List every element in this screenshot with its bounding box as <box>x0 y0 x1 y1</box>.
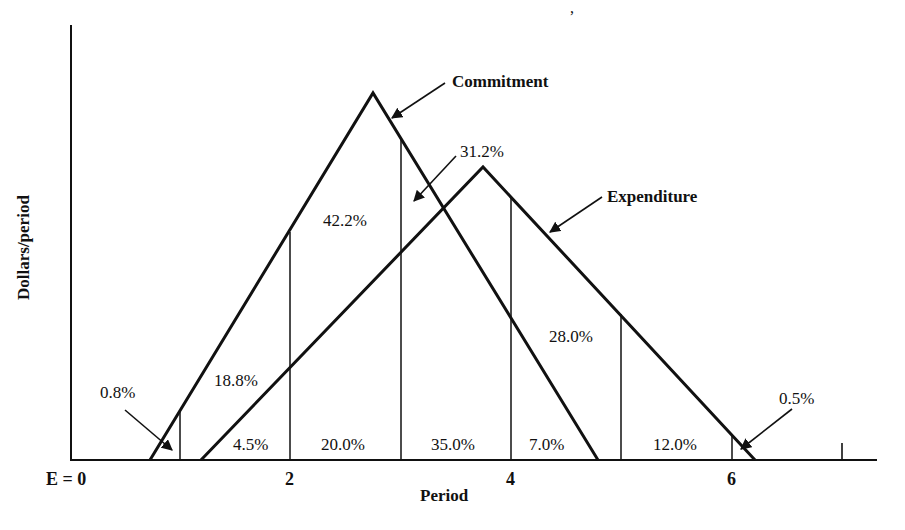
commitment-arrow <box>392 83 445 118</box>
y-axis-label: Dollars/period <box>14 195 34 300</box>
x-tick-4: 4 <box>506 469 515 490</box>
x-tick-0: E = 0 <box>46 469 86 490</box>
commitment-period-4-pct: 31.2% <box>460 143 504 160</box>
x-tick-2: 2 <box>285 469 294 490</box>
commitment-expenditure-diagram: , Dollars/period Period E = 0 2 4 6 Comm… <box>0 0 905 530</box>
expenditure-label: Expenditure <box>607 188 697 205</box>
arrow-0-8 <box>125 410 172 450</box>
expenditure-arrow <box>550 197 602 232</box>
expenditure-period-3-pct: 20.0% <box>321 436 365 453</box>
expenditure-period-7-pct: 0.5% <box>779 390 814 407</box>
stray-mark: , <box>570 0 574 16</box>
expenditure-period-6-pct: 12.0% <box>653 436 697 453</box>
expenditure-period-2-pct: 4.5% <box>233 436 268 453</box>
x-axis-label: Period <box>420 486 468 506</box>
expenditure-period-4-pct: 35.0% <box>431 436 475 453</box>
commitment-period-5-pct: 7.0% <box>529 436 564 453</box>
commitment-period-2-pct: 18.8% <box>214 372 258 389</box>
expenditure-curve <box>201 167 755 460</box>
arrow-0-5 <box>741 409 792 449</box>
commitment-label: Commitment <box>452 73 548 90</box>
expenditure-period-5-pct: 28.0% <box>549 328 593 345</box>
commitment-period-3-pct: 42.2% <box>323 212 367 229</box>
x-tick-6: 6 <box>727 469 736 490</box>
commitment-period-1-pct: 0.8% <box>100 384 135 401</box>
commitment-curve <box>150 93 598 460</box>
